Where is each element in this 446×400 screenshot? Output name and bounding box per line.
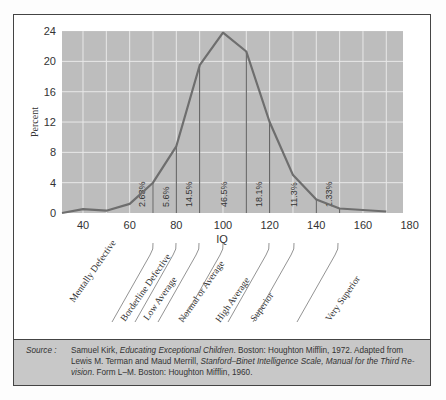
iq-distribution-chart: 04812162024406080100120140160180IQPercen… [0, 0, 446, 340]
x-tick-label: 100 [214, 219, 232, 231]
x-tick-label: 40 [77, 219, 89, 231]
band-percent-label: 18.1% [254, 181, 264, 207]
source-text-part: . Form L–M. Boston: Houghton Mifflin, 19… [92, 368, 253, 377]
x-tick-label: 60 [124, 219, 136, 231]
y-tick-label: 4 [50, 177, 56, 189]
x-tick-label: 160 [354, 219, 372, 231]
source-label: Source : [26, 345, 57, 356]
band-percent-label: 5.6% [161, 186, 171, 207]
source-text-part: . Boston: Houghton Mifflin, 1972. Adapte… [233, 346, 403, 355]
source-box: Source : Samuel Kirk, Educating Exceptio… [13, 339, 431, 386]
source-book-title: Educating Exceptional Children [120, 346, 234, 355]
x-tick-label: 120 [260, 219, 278, 231]
source-text-part: Lewis M. Terman and Maud Merrill, [71, 357, 201, 366]
y-axis-label: Percent [29, 107, 40, 137]
category-label: High Average [213, 276, 251, 325]
band-percent-label: 14.5% [184, 181, 194, 207]
x-axis-label: IQ [216, 233, 228, 245]
y-tick-label: 20 [44, 55, 56, 67]
x-tick-label: 140 [307, 219, 325, 231]
y-tick-label: 16 [44, 86, 56, 98]
y-tick-label: 0 [50, 207, 56, 219]
y-tick-label: 8 [50, 146, 56, 158]
x-tick-label: 180 [400, 219, 418, 231]
y-tick-label: 24 [44, 25, 56, 37]
y-tick-label: 12 [44, 116, 56, 128]
source-manual-title: Stanford–Binet Intelligence Scale, Manua… [201, 357, 415, 366]
category-label: Mentally Defective [67, 238, 117, 304]
source-text-part: Samuel Kirk, [71, 346, 120, 355]
source-manual-title: vision [71, 368, 92, 377]
band-percent-label: 11.3% [289, 182, 299, 207]
band-percent-label: 46.5% [219, 181, 229, 207]
category-label: Very Superior [323, 273, 362, 323]
x-tick-label: 80 [170, 219, 182, 231]
source-text: Samuel Kirk, Educating Exceptional Child… [71, 345, 423, 378]
